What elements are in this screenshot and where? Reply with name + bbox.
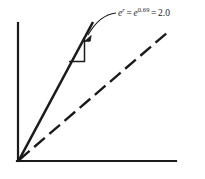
exponential-growth-diagram: er=e0.69=2.0 [0,0,205,179]
annotation-exponent-value: 0.69 [138,6,150,13]
annotation-equals-second: = [150,8,158,18]
dashed-reference-line [19,32,168,160]
annotation-result-value: 2.0 [158,8,170,18]
solid-growth-line [19,22,93,160]
growth-rate-annotation: er=e0.69=2.0 [118,6,170,18]
diagram-canvas [0,0,205,179]
